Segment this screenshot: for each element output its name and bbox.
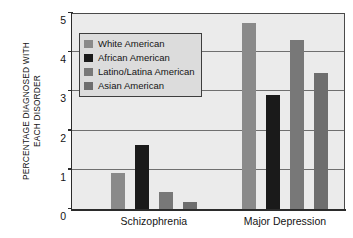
bar — [183, 202, 197, 209]
x-axis-line — [71, 209, 346, 211]
y-axis-title-line-2: EACH DISORDER — [32, 75, 43, 147]
legend-item-label: Latino/Latina American — [98, 67, 195, 77]
y-axis-tick — [68, 51, 72, 53]
bar — [242, 23, 256, 209]
legend-color-swatch — [84, 54, 93, 62]
legend-item: African American — [84, 51, 195, 65]
x-axis-category-label: Major Depression — [244, 215, 326, 227]
legend-item: Latino/Latina American — [84, 65, 195, 79]
y-axis-title: PERCENTAGE DIAGNOSED WITH EACH DISORDER — [17, 13, 47, 209]
bar — [314, 73, 328, 209]
bar — [266, 95, 280, 209]
y-axis-tick — [68, 168, 72, 170]
legend-items: White AmericanAfrican AmericanLatino/Lat… — [84, 37, 195, 93]
legend-color-swatch — [84, 82, 93, 90]
legend-item: White American — [84, 37, 195, 51]
y-axis-tick — [68, 12, 72, 14]
legend-item-label: African American — [98, 53, 170, 63]
bar — [111, 173, 125, 209]
bar — [290, 40, 304, 209]
bar — [159, 192, 173, 209]
y-axis-title-line-1: PERCENTAGE DIAGNOSED WITH — [21, 42, 32, 180]
legend-item-label: Asian American — [98, 81, 164, 91]
y-axis-tick — [68, 129, 72, 131]
legend-color-swatch — [84, 40, 93, 48]
legend-item: Asian American — [84, 79, 195, 93]
x-axis-category-label: Schizophrenia — [121, 215, 188, 227]
y-axis-tick — [68, 90, 72, 92]
legend-color-swatch — [84, 68, 93, 76]
y-axis-tick — [68, 208, 72, 210]
bar-chart: PERCENTAGE DIAGNOSED WITH EACH DISORDER … — [0, 0, 353, 238]
bar — [135, 145, 149, 209]
legend: White AmericanAfrican AmericanLatino/Lat… — [79, 33, 202, 97]
legend-item-label: White American — [98, 39, 165, 49]
